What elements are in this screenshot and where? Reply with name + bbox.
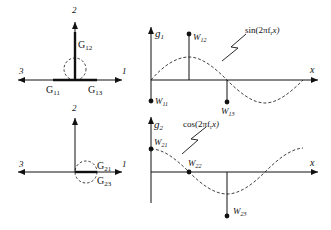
axis-label-3: 3: [18, 66, 24, 76]
g2-axis-label: g2: [154, 118, 164, 132]
w13-point: [225, 100, 230, 105]
g1-axis-label: g1: [155, 27, 164, 41]
lightning-pointer-icon: [182, 127, 206, 154]
label-w23: W23: [233, 206, 247, 217]
bottom-left-gauge-diagram: [18, 118, 122, 183]
w23-point: [225, 214, 230, 219]
x-axis-label: x: [309, 64, 315, 75]
top-right-sine-plot: [149, 27, 318, 104]
label-w22: W22: [188, 158, 202, 169]
label-w21: W21: [154, 137, 168, 148]
label-g23: G23: [97, 175, 112, 188]
bottom-right-cosine-plot: [149, 117, 318, 218]
diagram-canvas: 2 3 1 G12 G11 G13 2 3 1 G21 G23 g1 x sin…: [0, 0, 331, 230]
label-g13: G13: [88, 84, 103, 97]
label-g12: G12: [78, 39, 93, 52]
w12-point: [187, 32, 192, 37]
label-w11: W11: [155, 96, 168, 107]
w22-point: [187, 170, 192, 175]
label-w12: W12: [193, 32, 207, 43]
cosine-label: cos(2πfrx): [183, 119, 219, 130]
sine-label: sin(2πfrx): [245, 25, 280, 36]
label-g11: G11: [46, 84, 60, 97]
label-g21: G21: [97, 160, 112, 173]
label-w13: W13: [221, 106, 235, 117]
axis-label-2: 2: [72, 5, 77, 15]
x-axis-label: x: [309, 157, 315, 168]
axis-label-2: 2: [72, 103, 77, 113]
lightning-pointer-icon: [222, 34, 246, 61]
top-left-gauge-diagram: [18, 22, 122, 80]
w21-point: [149, 147, 154, 152]
axis-label-1: 1: [122, 66, 127, 76]
w11-point: [149, 99, 154, 104]
axis-label-1: 1: [122, 159, 127, 169]
axis-label-3: 3: [18, 159, 24, 169]
